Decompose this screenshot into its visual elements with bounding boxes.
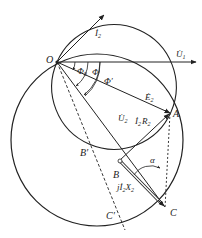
label-i2: İ2: [94, 28, 101, 39]
label-c: C: [170, 207, 177, 218]
label-e2: Ė2: [144, 92, 154, 103]
i2-vector: [57, 15, 104, 62]
phasor-diagram: O A B C B′ C′ İ2 U̇1 Ė2 U̇2 İ2R2 jİ2X2 Φ…: [0, 0, 202, 238]
label-phi-prime: Φ′: [104, 76, 114, 86]
point-o: [55, 60, 58, 63]
label-u2: U̇2: [118, 113, 128, 124]
point-b: [118, 159, 122, 163]
label-o: O: [46, 54, 53, 65]
label-b: B: [113, 169, 119, 180]
label-alpha: α: [150, 155, 155, 165]
label-i2r2: İ2R2: [134, 116, 151, 127]
alpha-arc: [134, 166, 160, 175]
diagram-canvas: O A B C B′ C′ İ2 U̇1 Ė2 U̇2 İ2R2 jİ2X2 Φ…: [0, 0, 202, 238]
label-u1: U̇1: [176, 49, 186, 60]
phi0-arc: [73, 62, 75, 70]
label-phi0: Φ0: [77, 66, 87, 77]
e2-vector: [57, 62, 170, 113]
label-phi: Φ: [92, 67, 99, 77]
dashed-o-c-prime: [57, 62, 125, 230]
label-a: A: [172, 108, 180, 119]
label-c-prime: C′: [106, 210, 116, 221]
dashed-a-c: [165, 113, 170, 208]
label-b-prime: B′: [80, 147, 89, 158]
inner-circle-arc: [57, 25, 176, 112]
label-ji2x2: jİ2X2: [116, 182, 134, 193]
